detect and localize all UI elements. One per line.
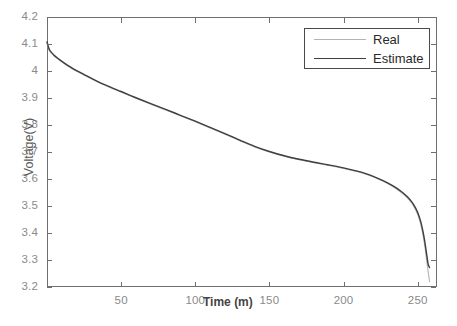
- series-line-real: [47, 43, 430, 282]
- x-tick-mark: [195, 282, 196, 287]
- legend-item-real: Real: [305, 30, 429, 50]
- y-tick-mark-right: [431, 71, 436, 72]
- y-tick-label: 4.2: [4, 10, 38, 22]
- y-tick-mark: [47, 17, 52, 18]
- y-tick-mark: [47, 287, 52, 288]
- legend-label-estimate: Estimate: [373, 51, 424, 66]
- chart-legend: Real Estimate: [304, 28, 430, 69]
- y-tick-mark: [47, 125, 52, 126]
- x-axis-title: Time (m): [203, 295, 253, 309]
- x-tick-mark-top: [418, 18, 419, 23]
- y-tick-mark-right: [431, 179, 436, 180]
- y-tick-mark: [47, 152, 52, 153]
- x-tick-mark-top: [195, 18, 196, 23]
- x-tick-mark: [269, 282, 270, 287]
- x-tick-mark: [344, 282, 345, 287]
- x-tick-label: 150: [249, 294, 289, 306]
- x-tick-mark-top: [269, 18, 270, 23]
- x-tick-mark-top: [121, 18, 122, 23]
- legend-item-estimate: Estimate: [305, 49, 429, 69]
- y-tick-mark-right: [431, 287, 436, 288]
- x-tick-label: 250: [398, 294, 438, 306]
- y-tick-mark-right: [431, 17, 436, 18]
- x-tick-mark-top: [344, 18, 345, 23]
- y-tick-mark-right: [431, 260, 436, 261]
- y-axis-title: Voltage(V): [22, 97, 36, 197]
- y-tick-label: 3.2: [4, 280, 38, 292]
- x-tick-label: 50: [101, 294, 141, 306]
- y-tick-mark: [47, 71, 52, 72]
- x-tick-label: 200: [324, 294, 364, 306]
- y-tick-label: 3.4: [4, 226, 38, 238]
- y-tick-label: 4: [4, 64, 38, 76]
- legend-swatch-estimate: [314, 58, 366, 59]
- y-tick-mark-right: [431, 98, 436, 99]
- y-tick-mark: [47, 233, 52, 234]
- x-tick-mark: [121, 282, 122, 287]
- y-tick-mark: [47, 98, 52, 99]
- series-line-estimate: [47, 42, 430, 268]
- legend-swatch-real: [314, 39, 366, 40]
- y-tick-mark: [47, 179, 52, 180]
- y-tick-label: 4.1: [4, 37, 38, 49]
- y-tick-mark-right: [431, 152, 436, 153]
- x-tick-mark: [418, 282, 419, 287]
- y-tick-mark-right: [431, 233, 436, 234]
- y-tick-mark-right: [431, 125, 436, 126]
- y-tick-mark: [47, 44, 52, 45]
- chart-figure: 3.23.33.43.53.63.73.83.944.14.2 50100150…: [0, 0, 457, 326]
- y-tick-mark-right: [431, 206, 436, 207]
- y-tick-mark: [47, 260, 52, 261]
- y-tick-label: 3.3: [4, 253, 38, 265]
- y-tick-label: 3.5: [4, 199, 38, 211]
- y-tick-mark-right: [431, 44, 436, 45]
- legend-label-real: Real: [373, 32, 400, 47]
- y-tick-mark: [47, 206, 52, 207]
